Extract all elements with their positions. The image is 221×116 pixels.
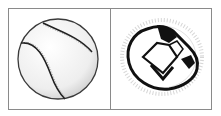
baseball-icon bbox=[9, 9, 110, 109]
panel-right: Baseball stadium bbox=[111, 9, 211, 109]
image-comparison-frame: Baseball Baseball stadium bbox=[8, 8, 212, 110]
baseball-stadium-icon bbox=[111, 9, 212, 109]
panel-left: Baseball bbox=[9, 9, 111, 109]
